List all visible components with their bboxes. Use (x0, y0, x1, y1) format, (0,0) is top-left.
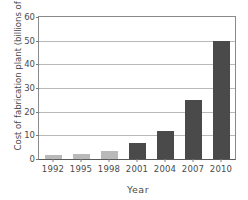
y-tick-mark (36, 88, 39, 89)
x-tick-mark (81, 159, 82, 162)
y-tick-label: 60 (24, 12, 35, 22)
x-tick-label: 1992 (42, 164, 64, 174)
bar (101, 151, 118, 159)
gridline (39, 135, 235, 136)
x-tick-label: 2004 (154, 164, 176, 174)
x-tick-label: 2007 (182, 164, 204, 174)
x-tick-mark (137, 159, 138, 162)
x-tick-label: 2001 (126, 164, 148, 174)
x-tick-label: 1995 (70, 164, 92, 174)
x-tick-mark (109, 159, 110, 162)
plot-area: 0102030405060 19921995199820012004200720… (38, 16, 236, 160)
gridline (39, 41, 235, 42)
bar (185, 100, 202, 159)
y-tick-mark (36, 41, 39, 42)
gridline (39, 88, 235, 89)
y-tick-mark (36, 17, 39, 18)
x-tick-mark (165, 159, 166, 162)
y-tick-label: 40 (24, 59, 35, 69)
y-tick-mark (36, 112, 39, 113)
y-tick-mark (36, 64, 39, 65)
gridline (39, 64, 235, 65)
x-tick-label: 1998 (98, 164, 120, 174)
y-tick-label: 50 (24, 36, 35, 46)
y-tick-label: 0 (30, 154, 35, 164)
x-tick-mark (53, 159, 54, 162)
y-axis-title: Cost of fabrication plant (billions of d… (14, 0, 23, 151)
x-tick-mark (193, 159, 194, 162)
y-tick-mark (36, 159, 39, 160)
y-tick-label: 20 (24, 107, 35, 117)
bar (157, 131, 174, 159)
bar (129, 143, 146, 159)
x-axis-title: Year (36, 184, 240, 195)
gridline (39, 112, 235, 113)
y-tick-label: 10 (24, 130, 35, 140)
bar-chart-figure: Cost of fabrication plant (billions of d… (0, 0, 248, 200)
y-tick-label: 30 (24, 83, 35, 93)
x-tick-label: 2010 (210, 164, 232, 174)
y-tick-mark (36, 135, 39, 136)
bar (213, 41, 230, 159)
x-tick-mark (221, 159, 222, 162)
